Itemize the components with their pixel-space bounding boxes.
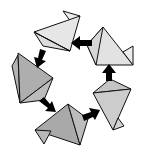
arrow-bottom-to-lower-right — [82, 108, 100, 121]
arrow-left-to-bottom — [39, 97, 56, 112]
polyhedron-lower-right — [93, 79, 131, 130]
polyhedron-top — [34, 11, 80, 51]
face-lr-main — [93, 89, 131, 130]
polyhedron-bottom — [35, 104, 88, 145]
polyhedra-cycle-diagram — [0, 0, 142, 156]
polyhedron-right — [87, 27, 133, 65]
arrow-lower-right-to-right — [102, 64, 116, 81]
polyhedron-left — [12, 53, 53, 103]
fin-bottom — [35, 130, 51, 144]
diagram-canvas — [0, 0, 142, 156]
